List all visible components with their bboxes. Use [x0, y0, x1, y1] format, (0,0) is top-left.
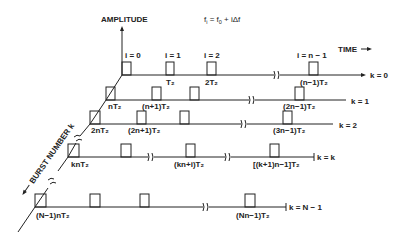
pulse [309, 62, 318, 75]
row-k-1: nT₂ (n+1)T₂ (2n−1)T₂ k = 1 [106, 87, 370, 111]
burst-axis-seg [58, 157, 68, 171]
row-k-2: 2nT₂ (2n+1)T₂ (3n−1)T₂ k = 2 [90, 111, 358, 135]
row-k-label: k = k [317, 153, 336, 162]
svg-text:nT₂: nT₂ [108, 102, 122, 111]
svg-text:knT₂: knT₂ [71, 160, 89, 169]
row-k-label: k = N − 1 [289, 203, 322, 212]
svg-text:(kn+i)T₂: (kn+i)T₂ [174, 160, 204, 169]
stepped-frequency-burst-diagram: AMPLITUDE fi = f0 + iΔf TIME BURST NUMBE… [0, 0, 408, 244]
pulse [166, 62, 174, 75]
row-k-label: k = 2 [339, 121, 358, 130]
pulse-index-label: i = 1 [165, 51, 181, 60]
svg-text:(2n−1)T₂: (2n−1)T₂ [283, 102, 316, 111]
svg-text:BURST NUMBER k: BURST NUMBER k [28, 121, 77, 185]
burst-axis-break-icon [74, 135, 82, 141]
row-k-0: i = 0 i = 1 i = 2 i = n − 1 T₂ 2T₂ (n−1)… [122, 51, 389, 87]
svg-text:(n+1)T₂: (n+1)T₂ [142, 102, 170, 111]
svg-text:T₂: T₂ [166, 78, 175, 87]
svg-text:(n−1)T₂: (n−1)T₂ [300, 78, 328, 87]
burst-number-label: BURST NUMBER k [19, 121, 76, 198]
row-k-n-minus-1: (N−1)nT₂ (Nn−1)T₂ k = N − 1 [35, 194, 322, 220]
burst-axis-seg [68, 143, 76, 157]
svg-text:(3n−1)T₂: (3n−1)T₂ [273, 126, 306, 135]
amplitude-label: AMPLITUDE [101, 15, 148, 24]
pulse-index-label: i = n − 1 [297, 51, 327, 60]
svg-text:(2n+1)T₂: (2n+1)T₂ [128, 126, 161, 135]
burst-axis-seg [90, 100, 106, 124]
burst-axis-seg [18, 207, 35, 232]
row-k-label: k = 0 [370, 71, 389, 80]
time-label: TIME [338, 45, 358, 54]
burst-axis-seg [80, 124, 90, 136]
frequency-formula: fi = f0 + iΔf [204, 15, 241, 25]
pulse-index-label: i = 0 [125, 51, 141, 60]
row-k-k: knT₂ (kn+i)T₂ [(k+1)n−1]T₂ k = k [68, 144, 336, 169]
pulse-index-label: i = 2 [204, 51, 220, 60]
pulse [122, 62, 131, 75]
svg-text:[(k+1)n−1]T₂: [(k+1)n−1]T₂ [253, 160, 300, 169]
svg-text:(Nn−1)T₂: (Nn−1)T₂ [236, 211, 270, 220]
time-arrow-icon [367, 47, 372, 51]
burst-axis-break-icon [48, 178, 56, 184]
pulse [207, 62, 216, 75]
svg-text:2T₂: 2T₂ [205, 78, 218, 87]
svg-text:(N−1)nT₂: (N−1)nT₂ [36, 211, 70, 220]
row-k-label: k = 1 [351, 97, 370, 106]
svg-text:2nT₂: 2nT₂ [91, 126, 109, 135]
amplitude-arrow-icon [120, 26, 124, 31]
